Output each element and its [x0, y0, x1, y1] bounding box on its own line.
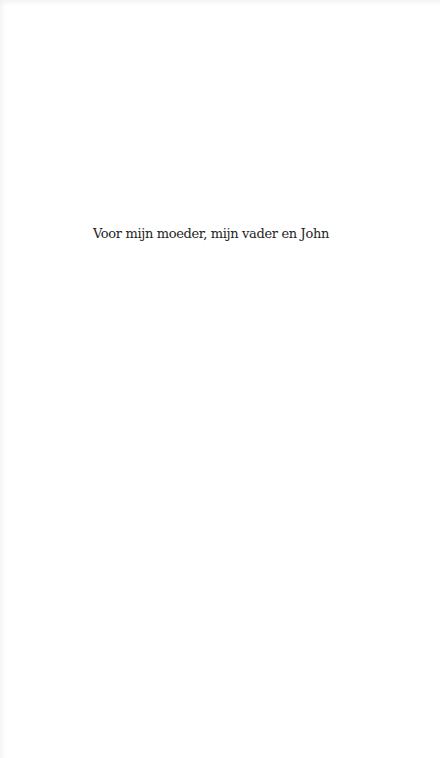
- scan-edge-top: [0, 0, 440, 6]
- scan-edge-left: [0, 0, 6, 758]
- dedication-text: Voor mijn moeder, mijn vader en John: [93, 225, 329, 243]
- book-page: Voor mijn moeder, mijn vader en John: [0, 0, 440, 758]
